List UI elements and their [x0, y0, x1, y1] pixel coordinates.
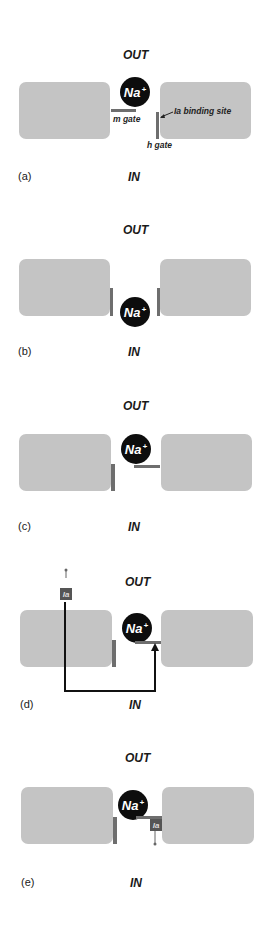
- panel-label: (b): [18, 345, 31, 357]
- binding-site-label: Ia binding site: [174, 106, 231, 116]
- panel-a: OUT Na+ m gate h gate Ia binding site (a…: [0, 0, 270, 190]
- out-label: OUT: [123, 399, 148, 413]
- panel-e: OUT Na+ Ia (e) IN: [0, 740, 270, 926]
- in-label: IN: [128, 170, 140, 184]
- m-gate: [110, 288, 113, 316]
- panel-b: OUT Na+ (b) IN: [0, 190, 270, 370]
- right-channel-block: [160, 259, 251, 316]
- panel-c: OUT Na+ (c) IN: [0, 370, 270, 550]
- in-label: IN: [130, 876, 142, 890]
- toxin-tail: [0, 740, 270, 926]
- in-label: IN: [128, 520, 140, 534]
- panel-label: (c): [18, 520, 31, 532]
- right-channel-block: [161, 434, 252, 491]
- out-label: OUT: [123, 223, 148, 237]
- h-gate: [134, 465, 160, 468]
- sodium-ion: Na+: [120, 297, 150, 327]
- in-label: IN: [129, 698, 141, 712]
- binding-site-pointer: [0, 0, 270, 190]
- m-gate: [111, 464, 115, 491]
- h-gate: [157, 288, 160, 316]
- left-channel-block: [19, 259, 110, 316]
- sodium-ion: Na+: [121, 434, 151, 464]
- panel-label: (a): [18, 170, 31, 182]
- panel-d: OUT Na+ Ia (d) IN: [0, 550, 270, 740]
- panel-label: (d): [20, 698, 33, 710]
- left-channel-block: [19, 434, 111, 491]
- in-label: IN: [128, 345, 140, 359]
- panel-label: (e): [21, 876, 34, 888]
- toxin-ia: Ia: [60, 588, 72, 600]
